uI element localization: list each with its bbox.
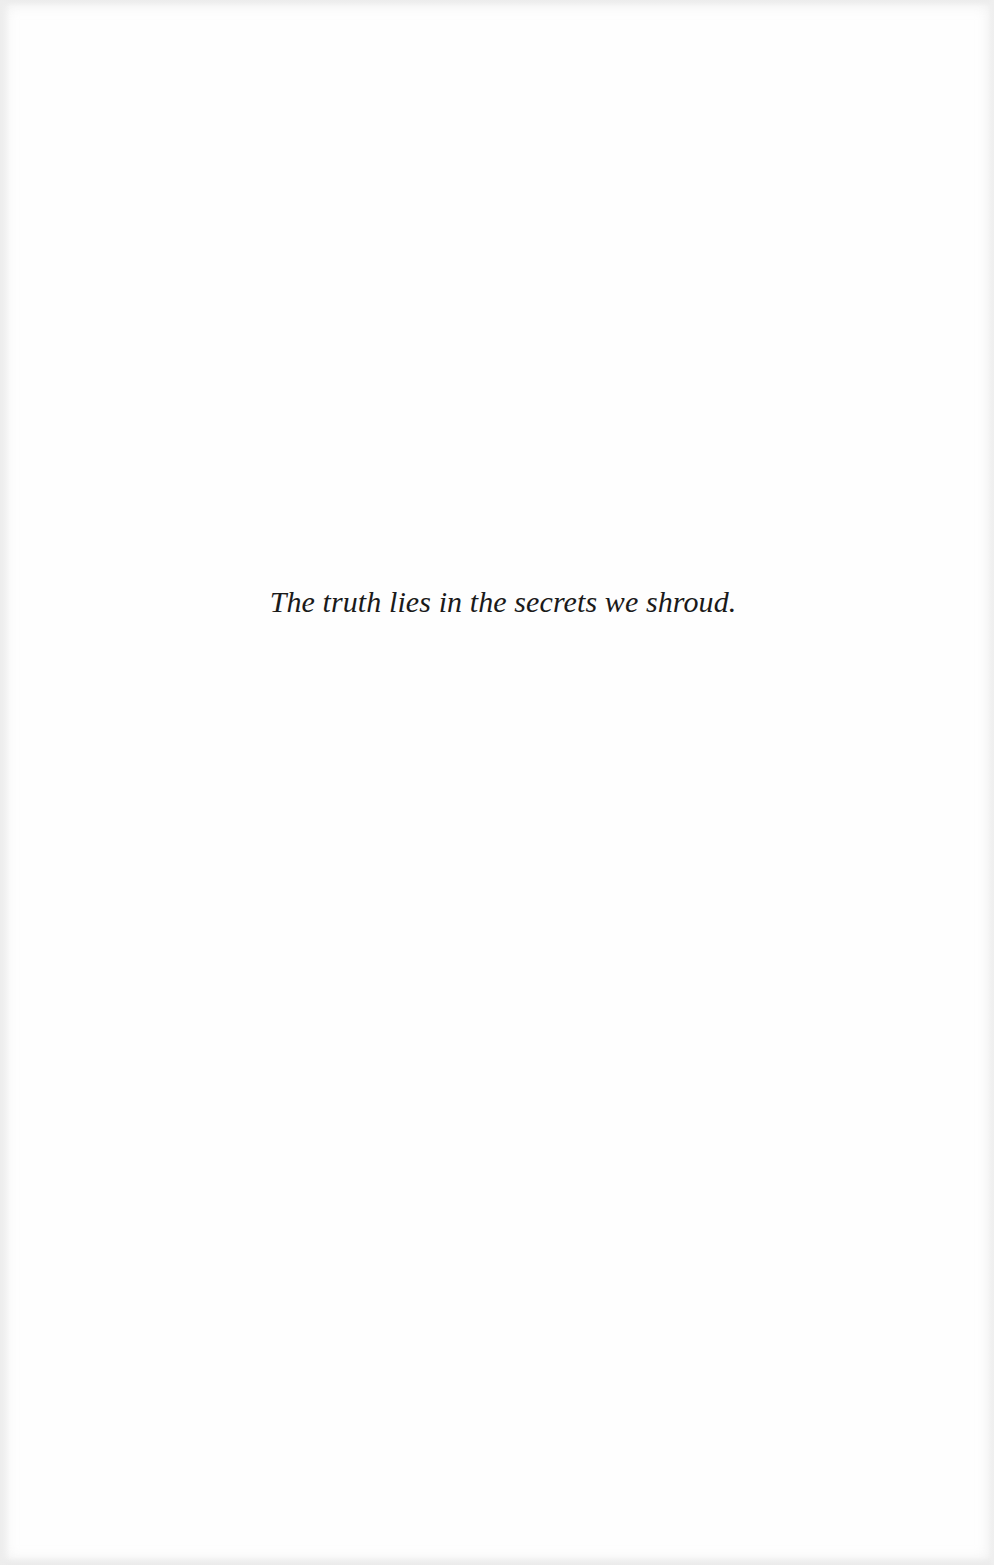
page-edge-right [988,0,994,1565]
epigraph-text: The truth lies in the secrets we shroud. [0,582,994,622]
page-edge-left [0,0,10,1565]
page-edge-top [0,0,994,6]
page-edge-bottom [0,1557,994,1565]
book-page: The truth lies in the secrets we shroud. [0,0,994,1565]
